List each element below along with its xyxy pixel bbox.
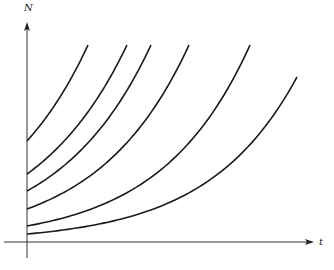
- y-axis-label: N: [24, 2, 33, 13]
- diagram: N t: [0, 0, 334, 270]
- growth-curve: [27, 45, 189, 209]
- growth-curve: [27, 45, 88, 141]
- growth-curve: [27, 77, 297, 234]
- x-axis-label: t: [319, 236, 323, 247]
- growth-curve: [27, 45, 250, 226]
- plot-area: [0, 0, 334, 270]
